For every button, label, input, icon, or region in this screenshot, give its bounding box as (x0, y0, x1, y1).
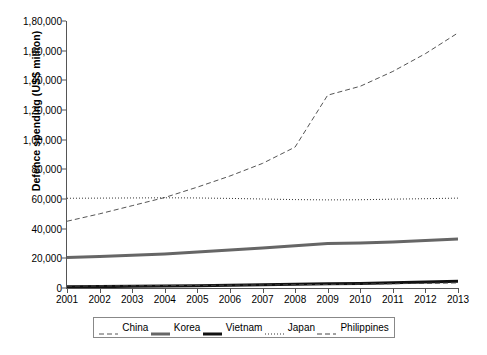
x-tick-mark (425, 289, 426, 293)
chart-legend: ChinaKoreaVietnamJapanPhilippines (93, 317, 395, 338)
series-line-japan (67, 198, 458, 200)
series-lines (67, 21, 458, 288)
x-tick-mark (132, 289, 133, 293)
x-tick-mark (67, 289, 68, 293)
legend-line-icon (203, 324, 222, 332)
legend-label: China (122, 322, 148, 333)
x-tick-label: 2013 (436, 294, 480, 305)
legend-item-philippines[interactable]: Philippines (317, 322, 388, 333)
plot-area (67, 21, 458, 288)
y-tick-label: 1,60,000 (6, 45, 62, 56)
legend-line-icon (99, 324, 118, 332)
legend-item-japan[interactable]: Japan (265, 322, 315, 333)
y-tick-label: 0 (6, 283, 62, 294)
y-tick-label: 1,40,000 (6, 75, 62, 86)
legend-item-vietnam[interactable]: Vietnam (203, 322, 263, 333)
legend-label: Japan (288, 322, 315, 333)
y-tick-label: 80,000 (6, 164, 62, 175)
x-tick-mark (360, 289, 361, 293)
legend-item-korea[interactable]: Korea (151, 322, 201, 333)
x-tick-mark (165, 289, 166, 293)
series-line-china (67, 33, 458, 221)
legend-line-icon (151, 324, 170, 332)
y-tick-label: 1,80,000 (6, 16, 62, 27)
y-tick-label: 40,000 (6, 223, 62, 234)
defence-spending-line-chart: Defence spending (US$ million) 020,00040… (0, 0, 487, 355)
legend-label: Korea (174, 322, 201, 333)
x-tick-mark (263, 289, 264, 293)
y-tick-label: 20,000 (6, 253, 62, 264)
legend-label: Vietnam (226, 322, 263, 333)
legend-item-china[interactable]: China (99, 322, 148, 333)
legend-line-icon (317, 324, 336, 332)
legend-line-icon (265, 324, 284, 332)
x-tick-mark (295, 289, 296, 293)
x-tick-mark (393, 289, 394, 293)
y-tick-label: 1,20,000 (6, 105, 62, 116)
x-tick-mark (328, 289, 329, 293)
x-tick-mark (230, 289, 231, 293)
x-tick-mark (197, 289, 198, 293)
legend-label: Philippines (340, 322, 388, 333)
series-line-korea (67, 239, 458, 258)
y-tick-label: 60,000 (6, 194, 62, 205)
y-tick-label: 1,00,000 (6, 134, 62, 145)
x-tick-mark (458, 289, 459, 293)
x-tick-mark (100, 289, 101, 293)
